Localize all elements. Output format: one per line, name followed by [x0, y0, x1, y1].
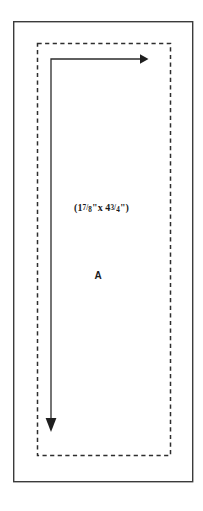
traversal-arrow-path — [46, 54, 149, 432]
arrow-path-polyline — [51, 59, 140, 425]
dimension-times: x — [98, 202, 103, 213]
arrowhead-right-icon — [140, 54, 149, 64]
dimension-close-paren: ) — [126, 202, 129, 213]
outer-solid-rectangle — [14, 22, 193, 482]
arrowhead-down-icon — [46, 418, 57, 432]
inner-dashed-rectangle — [38, 44, 171, 456]
technical-drawing-svg — [0, 0, 203, 511]
dimension-label: (17/8"x43/4") — [0, 203, 203, 214]
region-label-a: A — [0, 271, 196, 281]
figure-canvas: (17/8"x43/4") A — [0, 0, 203, 511]
